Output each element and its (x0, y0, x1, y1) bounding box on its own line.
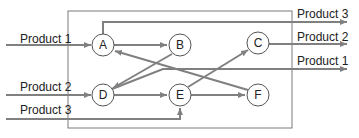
output-arrow-product-1 (112, 69, 347, 89)
node-f: F (247, 84, 269, 106)
node-a-label: A (99, 38, 107, 52)
node-b-label: B (176, 38, 184, 52)
node-c: C (247, 32, 269, 54)
node-e-label: E (176, 88, 184, 102)
node-d: D (92, 84, 114, 106)
output-label-product-2: Product 2 (297, 31, 348, 43)
input-label-product-1: Product 1 (20, 33, 71, 45)
output-label-product-3: Product 3 (297, 8, 348, 20)
output-label-product-1: Product 1 (297, 55, 348, 67)
node-a: A (92, 34, 114, 56)
node-d-label: D (99, 88, 108, 102)
input-label-product-2: Product 2 (20, 81, 71, 93)
node-c-label: C (254, 36, 263, 50)
node-e: E (169, 84, 191, 106)
node-f-label: F (254, 88, 261, 102)
node-b: B (169, 34, 191, 56)
input-label-product-3: Product 3 (20, 104, 71, 116)
